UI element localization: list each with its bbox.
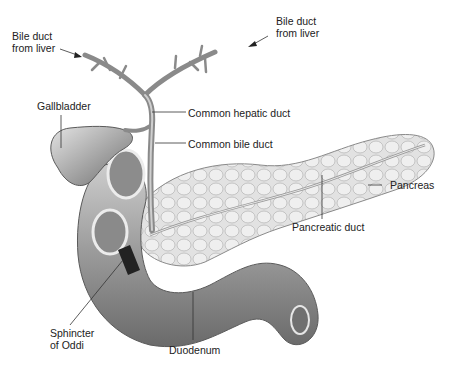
label-bile-duct-from-liver-right: Bile duct from liver xyxy=(276,15,319,39)
label-pancreatic-duct: Pancreatic duct xyxy=(292,221,364,233)
label-common-bile-duct: Common bile duct xyxy=(188,138,273,150)
label-gallbladder: Gallbladder xyxy=(37,100,91,112)
anatomy-illustration xyxy=(0,0,452,371)
anatomy-diagram: Bile duct from liver Bile duct from live… xyxy=(0,0,452,371)
pancreas-shape xyxy=(140,135,434,266)
label-duodenum: Duodenum xyxy=(169,344,220,356)
label-common-hepatic-duct: Common hepatic duct xyxy=(188,107,290,119)
label-pancreas: Pancreas xyxy=(390,179,434,191)
label-sphincter-of-oddi: Sphincter of Oddi xyxy=(50,327,94,351)
label-bile-duct-from-liver-left: Bile duct from liver xyxy=(12,30,55,54)
